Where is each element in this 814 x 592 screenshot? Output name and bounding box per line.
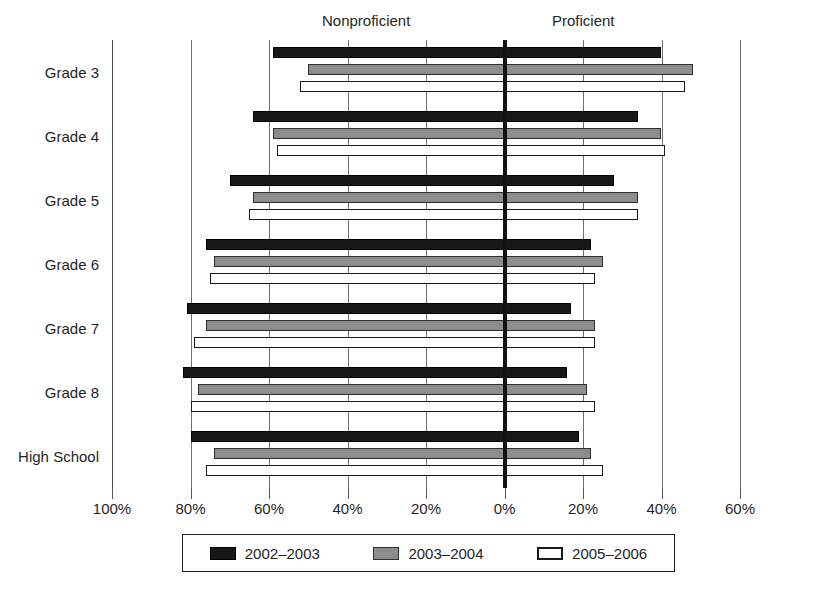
category-row: Grade 7 xyxy=(112,296,740,360)
category-row: High School xyxy=(112,424,740,488)
bar-high-school-2005-2006 xyxy=(206,465,602,476)
category-label-grade-6: Grade 6 xyxy=(45,256,99,273)
proficiency-chart: Nonproficient Proficient Grade 3Grade 4G… xyxy=(0,0,814,592)
x-tick-label: 20% xyxy=(411,500,441,517)
bar-grade-8-2003-2004 xyxy=(198,384,587,395)
bar-grade-4-2003-2004 xyxy=(273,128,662,139)
chart-legend: 2002–20032003–20042005–2006 xyxy=(182,534,675,572)
x-tick xyxy=(269,488,270,499)
category-row: Grade 8 xyxy=(112,360,740,424)
bar-grade-6-2005-2006 xyxy=(210,273,595,284)
legend-item-2002-2003: 2002–2003 xyxy=(210,545,320,562)
bar-grade-7-2005-2006 xyxy=(194,337,594,348)
bar-grade-5-2005-2006 xyxy=(249,209,638,220)
x-tick xyxy=(505,488,506,499)
x-axis: 100%80%60%40%20%0%20%40%60% xyxy=(112,488,740,522)
bar-grade-3-2002-2003 xyxy=(273,47,662,58)
x-tick xyxy=(348,488,349,499)
x-tick xyxy=(426,488,427,499)
x-tick-label: 60% xyxy=(725,500,755,517)
category-label-high-school: High School xyxy=(18,448,99,465)
x-tick-label: 60% xyxy=(254,500,284,517)
category-row: Grade 4 xyxy=(112,104,740,168)
bar-grade-8-2005-2006 xyxy=(191,401,595,412)
legend-swatch-2002-2003 xyxy=(210,547,236,560)
category-row: Grade 6 xyxy=(112,232,740,296)
bar-grade-8-2002-2003 xyxy=(183,367,568,378)
x-tick-label: 100% xyxy=(93,500,131,517)
zero-axis-line xyxy=(503,40,507,488)
bar-grade-7-2002-2003 xyxy=(187,303,572,314)
legend-label: 2002–2003 xyxy=(245,545,320,562)
category-label-grade-3: Grade 3 xyxy=(45,64,99,81)
legend-swatch-2003-2004 xyxy=(373,547,399,560)
category-row: Grade 3 xyxy=(112,40,740,104)
x-tick-label: 20% xyxy=(568,500,598,517)
x-tick-label: 40% xyxy=(646,500,676,517)
bar-grade-6-2003-2004 xyxy=(214,256,603,267)
legend-item-2005-2006: 2005–2006 xyxy=(537,545,647,562)
x-tick xyxy=(740,488,741,499)
plot-area: Grade 3Grade 4Grade 5Grade 6Grade 7Grade… xyxy=(112,40,740,488)
x-tick-label: 40% xyxy=(332,500,362,517)
legend-label: 2005–2006 xyxy=(572,545,647,562)
bar-grade-5-2002-2003 xyxy=(230,175,615,186)
legend-label: 2003–2004 xyxy=(408,545,483,562)
legend-swatch-2005-2006 xyxy=(537,547,563,560)
bar-grade-4-2005-2006 xyxy=(277,145,666,156)
x-tick xyxy=(583,488,584,499)
nonproficient-region-label: Nonproficient xyxy=(322,12,410,29)
legend-item-2003-2004: 2003–2004 xyxy=(373,545,483,562)
gridline-60%-proficient xyxy=(740,40,741,488)
bar-grade-3-2005-2006 xyxy=(300,81,685,92)
x-tick xyxy=(191,488,192,499)
bar-high-school-2003-2004 xyxy=(214,448,591,459)
category-row: Grade 5 xyxy=(112,168,740,232)
category-label-grade-8: Grade 8 xyxy=(45,384,99,401)
bar-grade-3-2003-2004 xyxy=(308,64,693,75)
x-tick xyxy=(112,488,113,499)
bar-grade-6-2002-2003 xyxy=(206,239,591,250)
bar-high-school-2002-2003 xyxy=(191,431,580,442)
category-label-grade-4: Grade 4 xyxy=(45,128,99,145)
x-tick xyxy=(662,488,663,499)
bar-grade-7-2003-2004 xyxy=(206,320,595,331)
category-label-grade-5: Grade 5 xyxy=(45,192,99,209)
category-label-grade-7: Grade 7 xyxy=(45,320,99,337)
bar-grade-5-2003-2004 xyxy=(253,192,638,203)
proficient-region-label: Proficient xyxy=(552,12,615,29)
bar-grade-4-2002-2003 xyxy=(253,111,638,122)
x-tick-label: 80% xyxy=(175,500,205,517)
x-tick-label: 0% xyxy=(494,500,516,517)
